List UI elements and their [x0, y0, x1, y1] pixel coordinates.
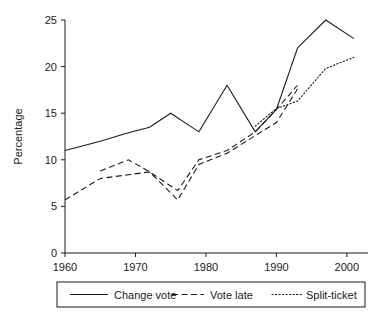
y-tick-label: 10 — [45, 154, 57, 166]
legend-label-change-vote: Change vote — [114, 289, 176, 301]
x-tick-label: 1980 — [194, 261, 218, 273]
x-tick-label: 1990 — [264, 261, 288, 273]
x-tick-label: 1970 — [123, 261, 147, 273]
legend-label-vote-late: Vote late — [210, 289, 253, 301]
x-tick-label: 2000 — [335, 261, 359, 273]
series-line-vote-late-early — [65, 89, 298, 200]
y-tick-label: 0 — [51, 247, 57, 259]
y-axis-title: Percentage — [12, 108, 24, 164]
line-chart: 051015202519601970198019902000Percentage… — [0, 0, 385, 318]
y-tick-label: 15 — [45, 107, 57, 119]
chart-figure: 051015202519601970198019902000Percentage… — [0, 0, 385, 318]
legend-label-split-ticket: Split-ticket — [306, 289, 357, 301]
x-tick-label: 1960 — [53, 261, 77, 273]
y-tick-label: 20 — [45, 61, 57, 73]
y-tick-label: 25 — [45, 14, 57, 26]
y-tick-label: 5 — [51, 200, 57, 212]
